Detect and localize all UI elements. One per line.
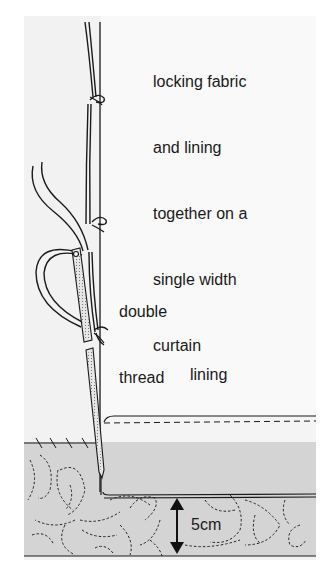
double-thread: [32, 22, 98, 332]
double-thread-label: double thread: [119, 257, 167, 411]
thread-label-line: thread: [119, 367, 167, 389]
measurement-label: 5cm: [191, 514, 221, 536]
thread-label-line: double: [119, 301, 167, 323]
title-line: single width: [153, 269, 313, 291]
diagram-title: locking fabric and lining together on a …: [153, 27, 313, 379]
title-line: and lining: [153, 137, 313, 159]
title-line: curtain: [153, 335, 313, 357]
lining-label: lining: [190, 364, 227, 386]
curtain-fabric: [24, 416, 316, 556]
title-line: locking fabric: [153, 71, 313, 93]
title-line: together on a: [153, 203, 313, 225]
